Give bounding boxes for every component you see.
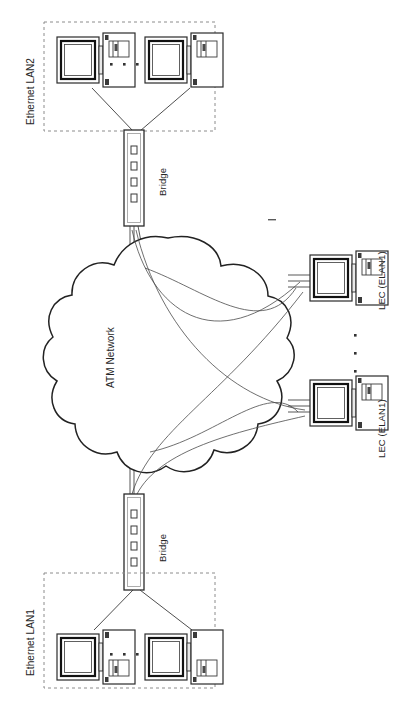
network-diagram-svg: [0, 0, 393, 724]
atm-network-cloud: [43, 236, 294, 472]
label-bridge-top: Bridge: [158, 168, 168, 196]
label-lec-upper: LEC (ELAN1): [377, 251, 387, 310]
bridge-top: [124, 130, 144, 226]
lan1-host-2: [145, 630, 223, 684]
cloud-outline: [43, 236, 294, 472]
lan2-host-1: [57, 33, 135, 87]
label-ethernet-lan1: Ethernet LAN1: [26, 609, 36, 676]
label-lec-lower: LEC (ELAN1): [377, 399, 387, 458]
label-bridge-bottom: Bridge: [158, 534, 168, 562]
lan2-links: [92, 88, 190, 131]
lan2-host-2: [145, 33, 223, 87]
label-atm-network: ATM Network: [106, 327, 116, 388]
scan-artifact-mark: [268, 219, 276, 220]
bridge-bottom: [124, 494, 144, 590]
lan1-links: [94, 590, 192, 630]
lan1-host-1: [57, 630, 135, 684]
label-ethernet-lan2: Ethernet LAN2: [26, 58, 36, 125]
diagram-canvas: Ethernet LAN2 Bridge ATM Network LEC (EL…: [0, 0, 393, 724]
lec-ellipsis-dots: [354, 334, 357, 373]
